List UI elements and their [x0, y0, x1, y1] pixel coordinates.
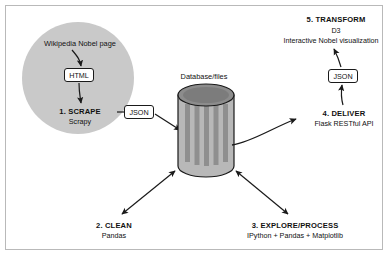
- step-scrape-subtitle: Scrapy: [44, 118, 116, 126]
- database-cylinder: [178, 84, 234, 177]
- step-scrape-title: 1. SCRAPE: [44, 108, 116, 117]
- json-tag-left: JSON: [124, 105, 154, 119]
- step-transform-subtitle-line2: Interactive Nobel visualization: [273, 37, 389, 45]
- html-tag: HTML: [64, 68, 94, 82]
- json-tag-right: JSON: [328, 69, 358, 83]
- source-label: Wikipedia Nobel page: [29, 40, 131, 49]
- arrow-json-to-database: [155, 114, 180, 130]
- step-explore-title: 3. EXPLORE/PROCESS: [225, 222, 365, 231]
- step-transform-title: 5. TRANSFORM: [284, 16, 388, 25]
- step-deliver-title: 4. DELIVER: [307, 110, 381, 119]
- arrow-deliver-to-json: [341, 85, 343, 105]
- step-transform-subtitle-line1: D3: [284, 27, 388, 35]
- arrow-json-to-transform: [334, 49, 341, 67]
- step-clean-subtitle: Pandas: [78, 232, 150, 240]
- step-explore-subtitle: IPython + Pandas + Matplotlib: [225, 232, 365, 240]
- arrow-clean-database: [122, 171, 175, 214]
- pipeline-diagram: Wikipedia Nobel page HTML 1. SCRAPE Scra…: [0, 0, 390, 258]
- arrow-database-to-deliver: [232, 119, 296, 145]
- arrow-explore-database: [236, 171, 288, 214]
- database-label: Database/files: [159, 73, 249, 82]
- step-deliver-subtitle: Flask RESTful API: [301, 120, 387, 128]
- step-clean-title: 2. CLEAN: [78, 222, 150, 231]
